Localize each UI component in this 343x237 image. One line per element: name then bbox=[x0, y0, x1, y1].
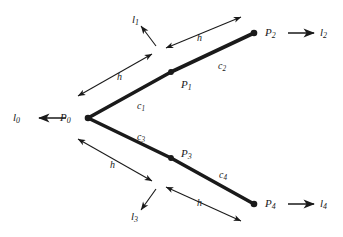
curve-label-c1: c1 bbox=[137, 101, 145, 113]
curve-label-c2-sub: 2 bbox=[222, 65, 226, 73]
point-label-p0-base: P bbox=[60, 111, 67, 123]
point-label-p1-base: P bbox=[181, 78, 188, 90]
point-label-p0-sub: 0 bbox=[67, 116, 71, 125]
direction-label-l4-sub: 4 bbox=[323, 202, 327, 211]
curve-label-c3-sub: 3 bbox=[141, 136, 145, 144]
point-label-p4-sub: 4 bbox=[272, 202, 276, 211]
point-marker-p3 bbox=[168, 155, 174, 161]
point-marker-p2 bbox=[251, 30, 258, 37]
point-label-p2: P2 bbox=[265, 27, 276, 40]
direction-label-l0-sub: 0 bbox=[16, 116, 20, 125]
direction-label-l2-sub: 2 bbox=[323, 31, 327, 40]
direction-label-l2: l2 bbox=[320, 27, 327, 40]
point-label-p0: P0 bbox=[60, 112, 71, 125]
point-marker-p0 bbox=[85, 115, 92, 122]
point-label-p1-sub: 1 bbox=[188, 83, 192, 92]
point-label-p3-sub: 3 bbox=[188, 152, 192, 161]
direction-label-l1: l1 bbox=[132, 14, 139, 27]
direction-label-l4: l4 bbox=[320, 198, 327, 211]
direction-arrow-l3 bbox=[141, 189, 156, 210]
point-label-p3: P3 bbox=[181, 148, 192, 161]
point-label-p3-base: P bbox=[181, 147, 188, 159]
direction-label-l3-sub: 3 bbox=[134, 215, 138, 224]
curve-label-c4-sub: 4 bbox=[223, 174, 227, 182]
direction-label-l0: l0 bbox=[13, 112, 20, 125]
direction-arrow-l1 bbox=[141, 26, 156, 46]
segment-c1 bbox=[88, 72, 171, 118]
direction-label-l3: l3 bbox=[131, 211, 138, 224]
point-marker-p1 bbox=[168, 69, 174, 75]
measure-label-h-upper-right: h bbox=[197, 33, 202, 43]
point-label-p4-base: P bbox=[265, 197, 272, 209]
diagram-graphics bbox=[0, 0, 343, 237]
point-label-p4: P4 bbox=[265, 198, 276, 211]
point-marker-p4 bbox=[251, 201, 258, 208]
segment-c2 bbox=[171, 33, 254, 72]
point-label-p2-sub: 2 bbox=[272, 31, 276, 40]
curve-label-c2: c2 bbox=[218, 61, 226, 73]
curve-label-c4: c4 bbox=[219, 170, 227, 182]
diagram-canvas: P0 P1 P2 P3 P4 c1 c2 c3 c4 h h h h l0 l1… bbox=[0, 0, 343, 237]
measure-label-h-upper-left: h bbox=[117, 72, 122, 82]
direction-label-l1-sub: 1 bbox=[135, 18, 139, 27]
segment-c4 bbox=[171, 158, 254, 204]
curve-label-c1-sub: 1 bbox=[141, 105, 145, 113]
point-label-p2-base: P bbox=[265, 26, 272, 38]
measure-label-h-lower-left: h bbox=[110, 160, 115, 170]
curve-label-c3: c3 bbox=[137, 132, 145, 144]
measure-label-h-lower-right: h bbox=[197, 198, 202, 208]
point-label-p1: P1 bbox=[181, 79, 192, 92]
